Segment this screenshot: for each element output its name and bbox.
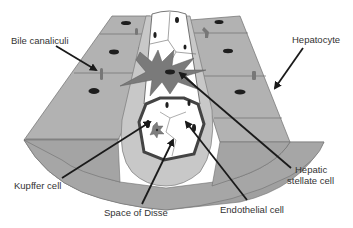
label-hepatocyte: Hepatocyte bbox=[292, 34, 340, 45]
endothelial-nucleus bbox=[188, 100, 191, 106]
nucleus bbox=[223, 49, 233, 53]
liver-sinusoid-diagram: Bile canaliculi Hepatocyte Hepatic stell… bbox=[0, 0, 353, 228]
arrow-hepatocyte bbox=[275, 48, 303, 88]
nucleus bbox=[235, 89, 246, 94]
nucleus bbox=[109, 50, 119, 55]
label-hepatic-stellate-cell-line2: stellate cell bbox=[287, 175, 334, 186]
label-space-of-disse: Space of Disse bbox=[104, 207, 168, 218]
nucleus bbox=[215, 20, 224, 24]
label-hepatic-stellate-cell-line1: Hepatic bbox=[295, 164, 327, 175]
bile-canaliculus bbox=[100, 68, 103, 80]
label-bile-canaliculi: Bile canaliculi bbox=[11, 35, 69, 46]
label-kupffer-cell: Kupffer cell bbox=[14, 180, 61, 191]
label-endothelial-cell: Endothelial cell bbox=[220, 204, 284, 215]
bile-canaliculus bbox=[252, 71, 256, 80]
endothelial-nucleus bbox=[165, 102, 168, 108]
nucleus bbox=[121, 21, 131, 25]
nucleus bbox=[89, 88, 100, 94]
bile-canaliculus bbox=[135, 28, 138, 35]
